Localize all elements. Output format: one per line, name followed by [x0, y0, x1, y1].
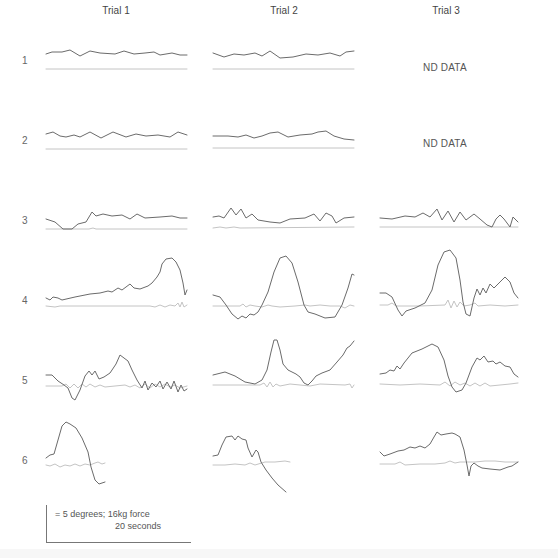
panel-row-4-trial-1 — [46, 258, 187, 307]
panel-row-3-trial-1 — [46, 212, 187, 229]
panel-row-6-trial-1 — [46, 422, 105, 484]
bottom-edge — [0, 549, 558, 558]
panel-row-2-trial-1 — [46, 132, 187, 149]
panel-row-6-trial-3 — [380, 432, 518, 476]
panel-row-1-trial-2 — [213, 51, 354, 69]
panel-row-6-trial-2 — [213, 436, 290, 492]
panel-row-5-trial-3 — [380, 344, 518, 392]
legend-scale-text: = 5 degrees; 16kg force — [55, 509, 150, 519]
legend-time-text: 20 seconds — [115, 521, 161, 531]
panel-row-5-trial-2 — [213, 340, 354, 388]
panel-row-1-trial-1 — [46, 50, 187, 69]
panel-row-5-trial-1 — [46, 355, 187, 400]
panel-row-3-trial-3 — [380, 209, 518, 227]
panel-row-4-trial-2 — [213, 256, 354, 319]
panel-row-3-trial-2 — [213, 208, 354, 228]
panel-row-4-trial-3 — [380, 250, 518, 316]
panel-row-2-trial-2 — [213, 131, 354, 148]
trace-grid — [0, 0, 558, 558]
scale-bar-legend: = 5 degrees; 16kg force 20 seconds — [46, 505, 191, 543]
